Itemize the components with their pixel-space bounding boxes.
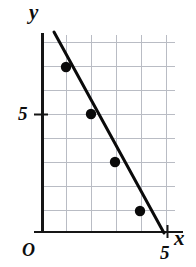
y-axis-label: y	[29, 2, 38, 23]
tick-marks	[34, 115, 168, 239]
chart-canvas	[0, 0, 196, 267]
data-point-2	[86, 109, 96, 119]
origin-label: O	[22, 241, 35, 259]
coordinate-plane-chart: y x O 5 5	[0, 0, 196, 267]
data-point-3	[110, 157, 120, 167]
plotted-line	[54, 32, 164, 233]
data-point-4	[135, 206, 145, 216]
x-axis-tick-label-5: 5	[160, 243, 170, 262]
data-point-1	[61, 62, 71, 72]
x-axis-label: x	[174, 228, 185, 249]
y-axis-tick-label-5: 5	[18, 104, 28, 123]
